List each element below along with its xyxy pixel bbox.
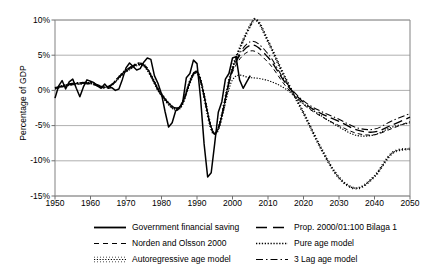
x-axis-tick-labels: 1950 1960 1970 1980 1990 2000 2010 2020 …: [0, 198, 429, 214]
line-key-tick-dotted: [93, 254, 127, 265]
chart-legend: Government financial saving Norden and O…: [0, 220, 429, 276]
legend-label: Pure age model: [294, 238, 354, 249]
legend-label: 3 Lag age model: [294, 254, 357, 265]
gdp-saving-line-chart: Percentage of GDP 10% 5% 0% -5% -10% -15…: [0, 0, 429, 278]
y-tick-label: -10%: [16, 156, 50, 165]
legend-label: Autoregressive age model: [132, 254, 231, 265]
x-tick-label: 2020: [284, 198, 324, 208]
legend-item: Pure age model: [255, 236, 354, 251]
series-line-ticks: [55, 19, 410, 188]
line-key-dotted: [255, 238, 289, 249]
x-tick-label: 1990: [177, 198, 217, 208]
y-tick-label: -5%: [16, 121, 50, 130]
line-key-short-dash: [93, 238, 127, 249]
plot-area: [0, 0, 429, 214]
x-tick-label: 1950: [35, 198, 75, 208]
y-tick-label: 0%: [16, 86, 50, 95]
legend-item: Autoregressive age model: [93, 252, 231, 267]
legend-item: Norden and Olsson 2000: [93, 236, 227, 251]
legend-label: Government financial saving: [132, 222, 239, 233]
x-tick-label: 2010: [248, 198, 288, 208]
x-tick-label: 1960: [71, 198, 111, 208]
line-key-solid: [93, 222, 127, 233]
legend-label: Norden and Olsson 2000: [132, 238, 227, 249]
legend-item: Prop. 2000/01:100 Bilaga 1: [255, 220, 397, 235]
legend-item: 3 Lag age model: [255, 252, 357, 267]
plot-svg: [0, 0, 429, 214]
x-tick-label: 2040: [355, 198, 395, 208]
series-line: [55, 19, 410, 188]
y-tick-label: 5%: [16, 51, 50, 60]
x-tick-label: 1970: [106, 198, 146, 208]
legend-item: Government financial saving: [93, 220, 239, 235]
x-tick-label: 2050: [390, 198, 429, 208]
x-tick-label: 1980: [142, 198, 182, 208]
series-line: [55, 51, 410, 135]
line-key-dash-dot: [255, 254, 289, 265]
y-axis-tick-labels: 10% 5% 0% -5% -10% -15%: [14, 0, 50, 214]
x-tick-label: 2000: [213, 198, 253, 208]
line-key-long-dash: [255, 222, 289, 233]
y-tick-label: 10%: [16, 16, 50, 25]
x-tick-label: 2030: [319, 198, 359, 208]
legend-label: Prop. 2000/01:100 Bilaga 1: [294, 222, 397, 233]
